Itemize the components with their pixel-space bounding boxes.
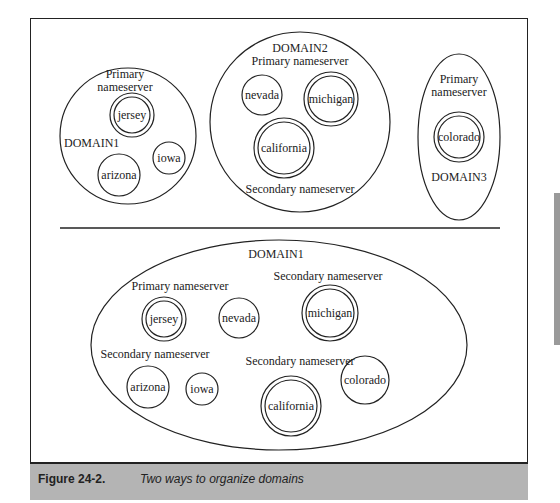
bottom-arizona-label: arizona [130,380,166,394]
colorado-label: colorado [438,130,480,144]
top-domain1-group: Primary nameserver jersey DOMAIN1 arizon… [60,67,196,204]
bottom-primary-label: Primary nameserver [132,279,229,293]
bottom-michigan-label: michigan [308,306,353,320]
bottom-secondary-arizona-label: Secondary nameserver [101,347,210,361]
jersey-label: jersey [117,108,147,122]
figure-caption: Two ways to organize domains [140,472,304,486]
bottom-secondary-california-label: Secondary nameserver [246,354,355,368]
bottom-nevada-label: nevada [222,311,257,325]
domain3-label-primary: Primary [440,72,479,86]
domain1-name: DOMAIN1 [64,136,119,150]
bottom-secondary-michigan-label: Secondary nameserver [274,269,383,283]
michigan-label: michigan [309,92,354,106]
bottom-domain1-name: DOMAIN1 [248,247,303,261]
page-edge-tab [554,193,560,345]
figure-number: Figure 24-2. [38,472,105,486]
california-label: california [261,141,308,155]
bottom-jersey-label: jersey [149,312,179,326]
arizona-label: arizona [101,168,137,182]
domain-diagram: Primary nameserver jersey DOMAIN1 arizon… [0,0,560,503]
bottom-california-label: california [268,399,315,413]
bottom-iowa-label: iowa [190,382,214,396]
domain2-primary-label: Primary nameserver [252,54,349,68]
domain2-secondary-label: Secondary nameserver [246,182,355,196]
top-domain2-group: DOMAIN2 Primary nameserver nevada michig… [210,32,390,212]
figure-caption-bar: Figure 24-2. Two ways to organize domain… [30,462,528,500]
bottom-domain1-group: DOMAIN1 Primary nameserver jersey nevada… [91,240,467,450]
domain3-label-nameserver: nameserver [431,85,486,99]
bottom-colorado-label: colorado [344,373,386,387]
domain1-label-primary: Primary [106,67,145,81]
domain3-name: DOMAIN3 [431,170,486,184]
domain2-name: DOMAIN2 [272,41,327,55]
domain1-label-nameserver: nameserver [97,80,152,94]
nevada-label: nevada [245,88,280,102]
top-domain3-group: Primary nameserver colorado DOMAIN3 [418,54,500,220]
iowa-label: iowa [157,151,181,165]
